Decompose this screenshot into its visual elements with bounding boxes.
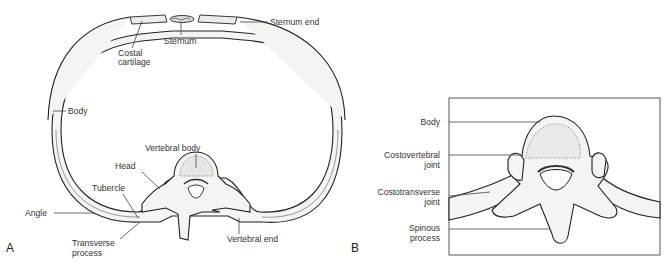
sternum-shape	[170, 16, 194, 23]
label-b-process: process	[410, 233, 440, 243]
label-b-spinous: Spinous	[409, 223, 440, 233]
rib-head-right	[592, 153, 606, 178]
label-body: Body	[68, 106, 88, 116]
rib-anatomy-diagram: Sternum end Sternum Costal cartilage Bod…	[0, 0, 671, 265]
costal-cartilage-right	[198, 15, 237, 24]
label-process: process	[72, 248, 102, 258]
label-cartilage: cartilage	[118, 57, 151, 67]
panel-a-letter: A	[6, 241, 14, 255]
label-b-costotransverse: Costotransverse	[377, 187, 440, 197]
label-sternum-end: Sternum end	[270, 17, 319, 27]
label-head: Head	[115, 161, 136, 171]
panel-b-letter: B	[351, 241, 359, 255]
label-b-costovertebral-joint: joint	[423, 160, 440, 170]
panel-a: Sternum end Sternum Costal cartilage Bod…	[6, 15, 345, 258]
label-b-body: Body	[420, 117, 440, 127]
label-b-costovertebral: Costovertebral	[384, 150, 440, 160]
label-tubercle: Tubercle	[92, 183, 125, 193]
label-vertebral-end: Vertebral end	[227, 234, 278, 244]
label-angle: Angle	[25, 208, 47, 218]
costal-cartilage-left	[130, 15, 167, 24]
label-vertebral-body: Vertebral body	[145, 143, 201, 153]
label-transverse: Transverse	[72, 238, 115, 248]
label-sternum: Sternum	[164, 36, 196, 46]
panel-b: Body Costovertebral joint Costotransvers…	[351, 98, 660, 255]
label-b-costotransverse-joint: joint	[423, 197, 440, 207]
